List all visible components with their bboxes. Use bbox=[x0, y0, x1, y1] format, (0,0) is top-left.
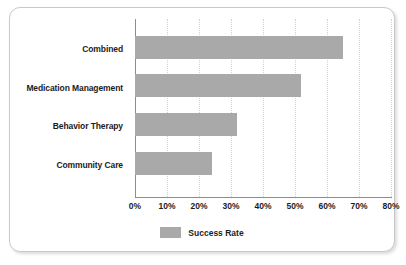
x-tick-70: 70% bbox=[350, 201, 367, 211]
x-axis-line bbox=[135, 197, 392, 198]
chart-card: Combined Medication Management Behavior … bbox=[9, 7, 395, 252]
bar-behavior-therapy bbox=[135, 113, 237, 136]
bar-row bbox=[135, 108, 391, 147]
gridline-80 bbox=[391, 19, 392, 197]
x-tick-40: 40% bbox=[254, 201, 271, 211]
category-label-medication-management: Medication Management bbox=[26, 83, 123, 93]
x-tick-0: 0% bbox=[129, 201, 141, 211]
bar-row bbox=[135, 147, 391, 186]
category-label-behavior-therapy: Behavior Therapy bbox=[53, 121, 123, 131]
bar-community-care bbox=[135, 152, 212, 175]
category-axis-labels: Combined Medication Management Behavior … bbox=[10, 19, 129, 197]
x-tick-30: 30% bbox=[222, 201, 239, 211]
plot-area bbox=[135, 19, 391, 197]
x-tick-50: 50% bbox=[286, 201, 303, 211]
legend-swatch-success-rate bbox=[160, 227, 181, 238]
category-label-community-care: Community Care bbox=[56, 160, 123, 170]
x-tick-20: 20% bbox=[190, 201, 207, 211]
x-tick-60: 60% bbox=[318, 201, 335, 211]
x-tick-80: 80% bbox=[382, 201, 399, 211]
legend-label-success-rate: Success Rate bbox=[188, 228, 243, 238]
category-label-combined: Combined bbox=[82, 44, 123, 54]
x-tick-10: 10% bbox=[158, 201, 175, 211]
legend: Success Rate bbox=[10, 227, 394, 238]
bar-row bbox=[135, 69, 391, 108]
x-axis-tick-labels: 0%10%20%30%40%50%60%70%80% bbox=[135, 201, 391, 217]
bar-combined bbox=[135, 36, 343, 59]
bar-series-success-rate bbox=[135, 19, 391, 197]
bar-medication-management bbox=[135, 74, 301, 97]
bar-row bbox=[135, 31, 391, 70]
